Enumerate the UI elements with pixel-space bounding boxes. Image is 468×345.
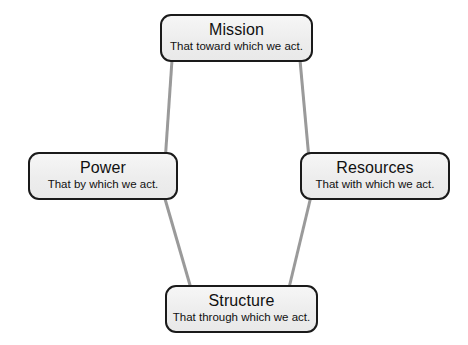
node-power-subtitle: That by which we act.: [48, 177, 159, 191]
node-structure-subtitle: That through which we act.: [173, 310, 310, 324]
connector-resources-structure: [288, 192, 312, 292]
node-structure[interactable]: Structure That through which we act.: [165, 285, 318, 333]
node-power[interactable]: Power That by which we act.: [28, 152, 178, 200]
node-resources-subtitle: That with which we act.: [316, 177, 435, 191]
node-resources-title: Resources: [336, 159, 413, 177]
node-mission-subtitle: That toward which we act.: [170, 39, 303, 53]
diagram-canvas: Mission That toward which we act. Power …: [0, 0, 468, 345]
node-structure-title: Structure: [209, 292, 275, 310]
node-resources[interactable]: Resources That with which we act.: [300, 152, 450, 200]
connector-power-structure: [163, 192, 192, 292]
node-mission[interactable]: Mission That toward which we act.: [160, 14, 313, 62]
node-mission-title: Mission: [209, 21, 264, 39]
node-power-title: Power: [80, 159, 126, 177]
